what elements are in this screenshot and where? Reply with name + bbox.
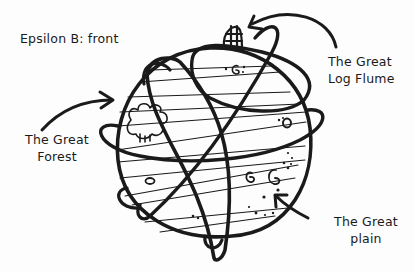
orbit-equator xyxy=(101,110,323,161)
label-great-plain: The Great plain xyxy=(330,213,402,247)
label-line: Log Flume xyxy=(328,70,404,87)
label-line: The Great xyxy=(24,131,90,148)
label-line: Forest xyxy=(24,148,90,165)
label-line: The Great xyxy=(330,213,402,230)
arrow-forest-icon xyxy=(42,92,113,130)
label-great-forest: The Great Forest xyxy=(24,131,90,165)
diagram-title: Epsilon B: front xyxy=(20,30,119,47)
label-great-log-flume: The Great Log Flume xyxy=(328,53,404,87)
label-line: The Great xyxy=(328,53,404,70)
crater-icon xyxy=(283,119,291,128)
label-line: plain xyxy=(330,230,402,247)
crater-small-icon xyxy=(146,178,155,184)
